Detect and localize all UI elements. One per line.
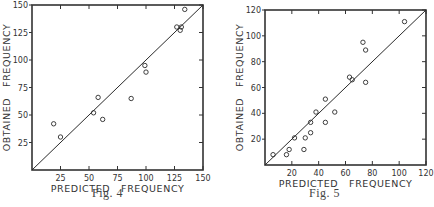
figure-4: 255075100125150255075100125150PREDICTED …	[0, 0, 217, 207]
fig5-data-point	[363, 80, 367, 84]
fig5-data-point	[271, 152, 275, 156]
fig5-data-point	[314, 110, 318, 114]
fig5-x-tick-label: 120	[418, 169, 433, 178]
fig4-y-axis-label: OBTAINED FREQUENCY	[1, 24, 12, 152]
fig5-y-tick-label: 40	[251, 109, 261, 118]
fig5-data-point	[363, 48, 367, 52]
fig5-data-point	[284, 152, 288, 156]
fig4-x-tick-label: 25	[55, 174, 65, 183]
fig4-data-point	[143, 63, 147, 67]
fig5-y-tick-label: 60	[251, 84, 261, 93]
fig4-reference-line	[32, 5, 203, 170]
fig5-caption: Fig. 5	[309, 186, 340, 201]
fig4-data-point	[144, 70, 148, 74]
fig4-y-tick-label: 50	[18, 111, 28, 120]
fig5-y-tick-label: 80	[251, 58, 261, 67]
fig5-y-axis-label: OBTAINED FREQUENCY	[234, 24, 245, 152]
figure-5: 2040608010012020406080100120PREDICTED FR…	[217, 0, 434, 207]
fig4-data-point	[51, 122, 55, 126]
fig5-x-axis-label: PREDICTED FREQUENCY	[279, 178, 413, 189]
fig5-y-tick-label: 100	[246, 32, 261, 41]
fig5-x-tick-label: 20	[287, 169, 297, 178]
fig5-x-tick-label: 60	[340, 169, 350, 178]
fig4-scatter-plot: 255075100125150255075100125150PREDICTED …	[0, 0, 217, 207]
fig5-data-point	[323, 97, 327, 101]
fig5-data-point	[361, 40, 365, 44]
fig5-data-point	[302, 147, 306, 151]
fig5-data-point	[303, 136, 307, 140]
fig4-y-tick-label: 150	[13, 1, 28, 10]
fig4-data-point	[100, 117, 104, 121]
fig4-x-tick-label: 50	[84, 174, 94, 183]
fig5-scatter-plot: 2040608010012020406080100120PREDICTED FR…	[217, 0, 434, 207]
fig5-reference-line	[265, 10, 426, 165]
fig5-data-point	[287, 147, 291, 151]
fig4-x-tick-label: 100	[138, 174, 153, 183]
fig5-x-tick-label: 100	[392, 169, 407, 178]
fig5-y-tick-label: 120	[246, 6, 261, 15]
fig4-x-tick-label: 125	[167, 174, 182, 183]
fig5-data-point	[323, 120, 327, 124]
fig4-data-point	[183, 7, 187, 11]
fig4-y-tick-label: 75	[18, 84, 28, 93]
fig4-caption: Fig. 4	[92, 186, 123, 201]
fig5-data-point	[308, 131, 312, 135]
fig5-data-point	[347, 75, 351, 79]
fig5-data-point	[333, 110, 337, 114]
fig5-data-point	[402, 19, 406, 23]
fig4-y-tick-label: 25	[18, 139, 28, 148]
fig4-data-point	[129, 96, 133, 100]
fig4-y-tick-label: 125	[13, 29, 28, 38]
fig4-x-tick-label: 75	[112, 174, 122, 183]
fig4-data-point	[58, 135, 62, 139]
fig5-x-tick-label: 80	[367, 169, 377, 178]
fig4-y-tick-label: 100	[13, 56, 28, 65]
fig5-y-tick-label: 20	[251, 135, 261, 144]
fig4-x-tick-label: 150	[195, 174, 210, 183]
fig5-x-tick-label: 40	[314, 169, 324, 178]
fig4-data-point	[96, 95, 100, 99]
